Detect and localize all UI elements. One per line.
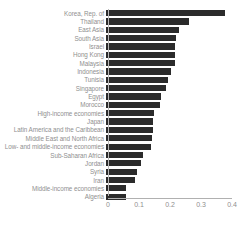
horizontal-bar-chart: Korea, Rep. ofThailandEast AsiaSouth Asi… bbox=[0, 0, 239, 230]
category-label: Jordan bbox=[0, 160, 106, 167]
bar bbox=[106, 68, 171, 74]
category-label: Tunisia bbox=[0, 76, 106, 83]
bar-row: Singapore bbox=[0, 84, 239, 92]
bar-track bbox=[106, 101, 237, 109]
category-label: Korea, Rep. of bbox=[0, 10, 106, 17]
bar-track bbox=[106, 67, 237, 75]
bar bbox=[106, 35, 176, 41]
category-label: South Asia bbox=[0, 35, 106, 42]
x-tick-label: 0.4 bbox=[227, 200, 237, 210]
category-label: Low- and middle-income economies bbox=[0, 143, 106, 150]
bar-track bbox=[106, 84, 237, 92]
bar-row: Syria bbox=[0, 168, 239, 176]
bar-row: Egypt bbox=[0, 92, 239, 100]
bar-row: Middle-income economies bbox=[0, 184, 239, 192]
bar bbox=[106, 160, 141, 166]
x-axis-ticks: 00.10.20.30.4 bbox=[0, 200, 239, 214]
category-label: Egypt bbox=[0, 93, 106, 100]
bar bbox=[106, 135, 152, 141]
x-tick-label: 0.3 bbox=[196, 200, 206, 210]
bar-track bbox=[106, 17, 237, 25]
bar-track bbox=[106, 176, 237, 184]
bar bbox=[106, 127, 153, 133]
bar-track bbox=[106, 9, 237, 17]
bar bbox=[106, 85, 166, 91]
bar-track bbox=[106, 42, 237, 50]
bar bbox=[106, 102, 160, 108]
bar-track bbox=[106, 76, 237, 84]
bar bbox=[106, 10, 225, 16]
bar-row: Middle East and North Africa bbox=[0, 134, 239, 142]
bar-row: Malaysia bbox=[0, 59, 239, 67]
x-tick-label: 0.1 bbox=[134, 200, 144, 210]
bar-track bbox=[106, 159, 237, 167]
category-label: Middle-income economies bbox=[0, 185, 106, 192]
bar-row: Hong Kong bbox=[0, 51, 239, 59]
bar-track bbox=[106, 59, 237, 67]
category-label: Indonesia bbox=[0, 68, 106, 75]
bar-track bbox=[106, 168, 237, 176]
category-label: Israel bbox=[0, 43, 106, 50]
bar-row: Morocco bbox=[0, 101, 239, 109]
bar-row: Thailand bbox=[0, 17, 239, 25]
category-label: East Asia bbox=[0, 26, 106, 33]
category-label: Morocco bbox=[0, 101, 106, 108]
bar bbox=[106, 18, 189, 24]
bar bbox=[106, 177, 135, 183]
bar-row: East Asia bbox=[0, 26, 239, 34]
bar-row: Tunisia bbox=[0, 76, 239, 84]
bar bbox=[106, 144, 151, 150]
category-label: Singapore bbox=[0, 85, 106, 92]
bar-track bbox=[106, 92, 237, 100]
bar-track bbox=[106, 151, 237, 159]
x-tick-label: 0 bbox=[106, 200, 110, 210]
bar-track bbox=[106, 117, 237, 125]
bar bbox=[106, 169, 137, 175]
x-tick-label: 0.2 bbox=[165, 200, 175, 210]
bar bbox=[106, 93, 161, 99]
bar bbox=[106, 27, 179, 33]
bar-rows: Korea, Rep. ofThailandEast AsiaSouth Asi… bbox=[0, 9, 239, 201]
category-label: Japan bbox=[0, 118, 106, 125]
bar-track bbox=[106, 34, 237, 42]
y-axis-line bbox=[108, 9, 109, 196]
category-label: Thailand bbox=[0, 18, 106, 25]
bar bbox=[106, 77, 168, 83]
bar-track bbox=[106, 126, 237, 134]
bar-row: Jordan bbox=[0, 159, 239, 167]
bar-track bbox=[106, 143, 237, 151]
category-label: Latin America and the Caribbean bbox=[0, 126, 106, 133]
category-label: Middle East and North Africa bbox=[0, 135, 106, 142]
x-axis-line bbox=[108, 198, 232, 199]
bar-track bbox=[106, 109, 237, 117]
category-label: Iran bbox=[0, 177, 106, 184]
bar-row: Israel bbox=[0, 42, 239, 50]
bar bbox=[106, 52, 175, 58]
bar-track bbox=[106, 134, 237, 142]
bar-row: Low- and middle-income economies bbox=[0, 143, 239, 151]
bar bbox=[106, 152, 143, 158]
category-label: Hong Kong bbox=[0, 51, 106, 58]
category-label: High-income economies bbox=[0, 110, 106, 117]
bar-track bbox=[106, 51, 237, 59]
bar bbox=[106, 118, 153, 124]
category-label: Syria bbox=[0, 168, 106, 175]
bar-track bbox=[106, 26, 237, 34]
bar-row: South Asia bbox=[0, 34, 239, 42]
bar-row: Korea, Rep. of bbox=[0, 9, 239, 17]
category-label: Malaysia bbox=[0, 60, 106, 67]
plot-area: Korea, Rep. ofThailandEast AsiaSouth Asi… bbox=[0, 0, 239, 230]
bar-row: Indonesia bbox=[0, 67, 239, 75]
bar-row: Latin America and the Caribbean bbox=[0, 126, 239, 134]
bar bbox=[106, 185, 126, 191]
bar bbox=[106, 60, 175, 66]
bar bbox=[106, 43, 175, 49]
bar-row: Sub-Saharan Africa bbox=[0, 151, 239, 159]
bar-track bbox=[106, 184, 237, 192]
bar-row: High-income economies bbox=[0, 109, 239, 117]
category-label: Sub-Saharan Africa bbox=[0, 152, 106, 159]
bar bbox=[106, 110, 154, 116]
bar-row: Iran bbox=[0, 176, 239, 184]
bar-row: Japan bbox=[0, 117, 239, 125]
